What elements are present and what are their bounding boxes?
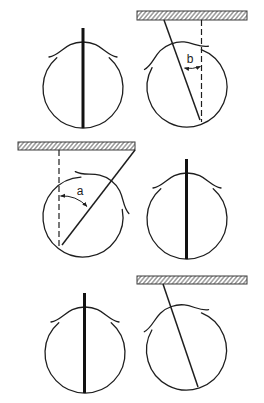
tilted-line <box>163 284 198 387</box>
panel-middle-left: a <box>18 142 143 273</box>
panel-bottom-left <box>45 293 125 393</box>
eye-outline <box>134 30 239 138</box>
tilted-line <box>164 20 200 120</box>
angle-b-arrow <box>185 67 201 69</box>
panel-middle-right <box>147 159 227 259</box>
panel-top-right: b <box>134 11 247 138</box>
angle-b-label: b <box>187 52 194 66</box>
eye-outline <box>134 293 238 400</box>
hatched-reference-bar <box>18 142 135 150</box>
panel-top-left <box>43 28 123 128</box>
hatched-reference-bar <box>137 276 247 284</box>
eye-rotation-diagram: b a <box>0 0 264 403</box>
angle-a-label: a <box>77 184 84 198</box>
panel-bottom-right <box>134 276 247 401</box>
hatched-reference-bar <box>137 11 247 20</box>
